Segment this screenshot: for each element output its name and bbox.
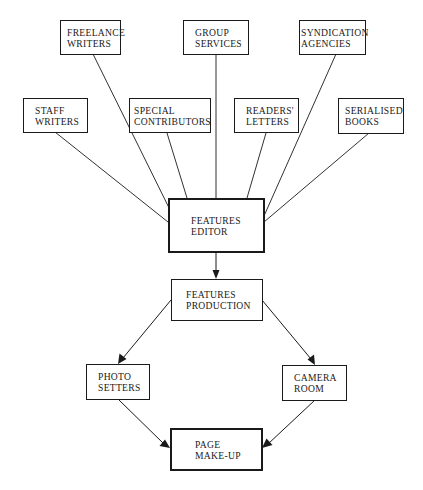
node-group-services: GROUP SERVICES xyxy=(183,20,249,55)
node-features-editor: FEATURES EDITOR xyxy=(168,198,265,253)
edge-readers-to-editor xyxy=(247,133,266,198)
node-label-line2: WRITERS xyxy=(35,116,87,127)
node-label-line1: PHOTO xyxy=(98,371,149,382)
node-label-line1: SYNDICATION xyxy=(301,27,365,38)
edge-production-to-photosetters xyxy=(123,300,171,358)
node-label-line2: WRITERS xyxy=(67,38,120,49)
node-label-line1: SERIALISED xyxy=(345,105,403,116)
node-freelance-writers: FREELANCE WRITERS xyxy=(60,20,121,55)
node-camera-room: CAMERA ROOM xyxy=(282,365,347,401)
node-staff-writers: STAFF WRITERS xyxy=(23,98,88,133)
node-page-make-up: PAGE MAKE-UP xyxy=(170,428,263,471)
edge-cameraroom-to-makeup xyxy=(268,400,315,444)
node-label-line1: FREELANCE xyxy=(67,27,120,38)
node-label-line2: AGENCIES xyxy=(301,38,365,49)
node-syndication-agencies: SYNDICATION AGENCIES xyxy=(299,20,366,55)
node-label-line1: FEATURES xyxy=(186,289,262,300)
edge-staff-to-editor xyxy=(55,132,168,222)
node-label-line2: PRODUCTION xyxy=(186,300,262,311)
node-label-line1: PAGE xyxy=(195,439,261,450)
edge-production-to-cameraroom xyxy=(262,300,311,359)
edge-special-to-editor xyxy=(167,133,187,198)
node-label-line1: CAMERA xyxy=(294,372,346,383)
node-readers-letters: READERS' LETTERS xyxy=(234,98,299,133)
node-label-line2: SERVICES xyxy=(195,38,248,49)
arrowhead-production xyxy=(213,270,220,279)
node-label-line2: ROOM xyxy=(294,383,346,394)
node-label-line1: GROUP xyxy=(195,27,248,38)
node-label-line2: EDITOR xyxy=(191,226,263,237)
edge-freelance-to-editor xyxy=(93,54,176,222)
node-special-contributors: SPECIAL CONTRIBUTORS xyxy=(129,98,211,133)
node-label-line2: LETTERS xyxy=(246,116,298,127)
node-label-line1: READERS' xyxy=(246,105,298,116)
node-label-line2: BOOKS xyxy=(345,116,403,127)
node-label-line2: SETTERS xyxy=(98,382,149,393)
node-label-line2: CONTRIBUTORS xyxy=(134,116,210,127)
node-serialised-books: SERIALISED BOOKS xyxy=(338,98,404,134)
node-features-production: FEATURES PRODUCTION xyxy=(171,279,263,321)
node-photo-setters: PHOTO SETTERS xyxy=(86,364,150,400)
features-workflow-diagram: FREELANCE WRITERS GROUP SERVICES SYNDICA… xyxy=(0,0,423,490)
arrowhead-makeup-right xyxy=(262,439,273,449)
node-label-line1: STAFF xyxy=(35,105,87,116)
edge-photosetters-to-makeup xyxy=(118,399,164,444)
node-label-line2: MAKE-UP xyxy=(195,450,261,461)
edge-serialised-to-editor xyxy=(264,133,369,222)
node-label-line1: FEATURES xyxy=(191,215,263,226)
node-label-line1: SPECIAL xyxy=(134,105,210,116)
